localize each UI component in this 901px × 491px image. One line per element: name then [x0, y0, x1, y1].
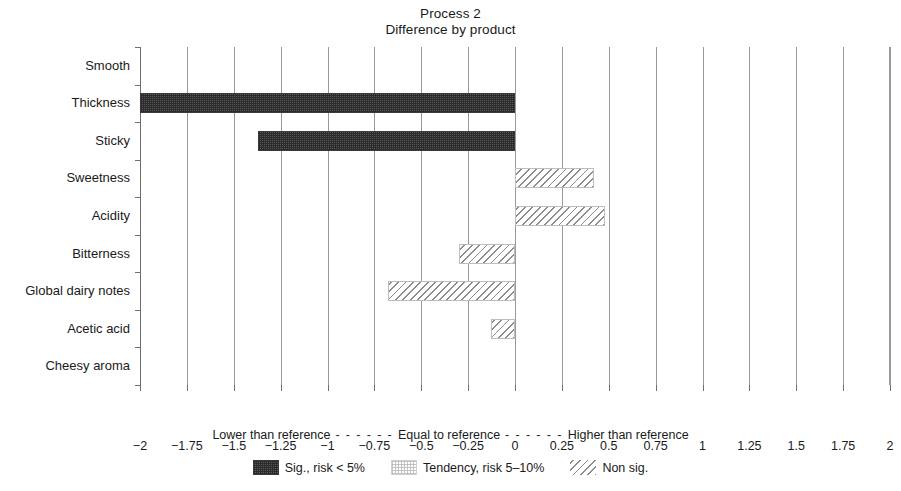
- caption-dash-left: - - - - - -: [331, 428, 399, 442]
- chart-legend: Sig., risk < 5%Tendency, risk 5–10%Non s…: [0, 460, 901, 475]
- plot-area: SmoothThicknessStickySweetnessAcidityBit…: [140, 47, 890, 385]
- legend-item: Tendency, risk 5–10%: [391, 460, 544, 475]
- x-tick: [468, 385, 469, 391]
- legend-swatch-checker-dark: [253, 460, 279, 475]
- legend-swatch-diagonal-hatch: [570, 460, 596, 475]
- gridline: [703, 47, 704, 385]
- gridline: [843, 47, 844, 385]
- category-label-acetic-acid: Acetic acid: [0, 322, 130, 336]
- x-tick: [234, 385, 235, 391]
- y-tick: [135, 85, 140, 86]
- category-label-global-dairy-notes: Global dairy notes: [0, 284, 130, 298]
- bar-sweetness: [515, 168, 594, 188]
- x-tick: [609, 385, 610, 391]
- category-label-cheesy-aroma: Cheesy aroma: [0, 359, 130, 373]
- bar-acidity: [515, 206, 605, 226]
- gridline: [609, 47, 610, 385]
- x-tick: [374, 385, 375, 391]
- category-label-sticky: Sticky: [0, 134, 130, 148]
- x-tick: [843, 385, 844, 391]
- chart-title-block: Process 2 Difference by product: [0, 6, 901, 38]
- gridline: [749, 47, 750, 385]
- bar-sticky: [258, 131, 515, 151]
- x-tick: [562, 385, 563, 391]
- x-tick: [281, 385, 282, 391]
- bar-thickness: [140, 93, 515, 113]
- y-tick: [135, 235, 140, 236]
- x-tick: [515, 385, 516, 391]
- y-tick: [135, 122, 140, 123]
- y-tick: [135, 347, 140, 348]
- chart-subtitle: Difference by product: [0, 22, 901, 38]
- bar-global-dairy-notes: [388, 281, 516, 301]
- x-tick: [890, 385, 891, 391]
- category-label-smooth: Smooth: [0, 59, 130, 73]
- legend-label: Non sig.: [602, 461, 648, 475]
- category-label-acidity: Acidity: [0, 209, 130, 223]
- x-tick: [749, 385, 750, 391]
- y-tick: [135, 272, 140, 273]
- gridline: [656, 47, 657, 385]
- caption-lower: Lower than reference: [212, 428, 330, 442]
- reference-caption: Lower than reference - - - - - - Equal t…: [0, 428, 901, 442]
- legend-label: Sig., risk < 5%: [285, 461, 365, 475]
- x-tick: [187, 385, 188, 391]
- x-tick: [421, 385, 422, 391]
- bar-bitterness: [459, 244, 515, 264]
- category-label-sweetness: Sweetness: [0, 171, 130, 185]
- y-tick: [135, 197, 140, 198]
- x-tick: [796, 385, 797, 391]
- gridline: [796, 47, 797, 385]
- y-tick: [135, 310, 140, 311]
- legend-item: Sig., risk < 5%: [253, 460, 365, 475]
- x-tick: [328, 385, 329, 391]
- y-tick: [135, 160, 140, 161]
- category-label-thickness: Thickness: [0, 96, 130, 110]
- legend-swatch-dotted-light: [391, 460, 417, 475]
- x-tick: [656, 385, 657, 391]
- chart-title: Process 2: [0, 6, 901, 22]
- x-tick: [703, 385, 704, 391]
- legend-item: Non sig.: [570, 460, 648, 475]
- chart-container: Process 2 Difference by product SmoothTh…: [0, 0, 901, 491]
- caption-dash-right: - - - - - -: [500, 428, 568, 442]
- y-tick: [135, 47, 140, 48]
- category-label-bitterness: Bitterness: [0, 247, 130, 261]
- legend-label: Tendency, risk 5–10%: [423, 461, 544, 475]
- gridline: [890, 47, 891, 385]
- bar-acetic-acid: [491, 319, 515, 339]
- x-tick: [140, 385, 141, 391]
- caption-equal: Equal to reference: [398, 428, 500, 442]
- caption-higher: Higher than reference: [568, 428, 689, 442]
